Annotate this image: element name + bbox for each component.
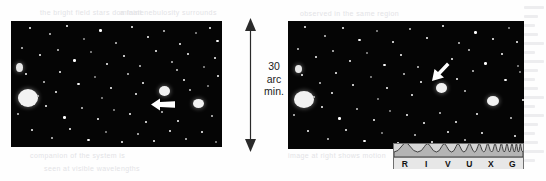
rivuxg-waveband-bar: R I V U X G bbox=[393, 143, 524, 169]
left-sky-panel[interactable] bbox=[11, 21, 222, 147]
waveband-letter-r: R bbox=[394, 159, 416, 169]
object-pointer-arrow bbox=[150, 97, 176, 112]
bleed-through-column bbox=[524, 6, 544, 176]
bright-extended-object bbox=[18, 89, 38, 107]
target-object bbox=[436, 83, 447, 93]
waveband-letter-u: U bbox=[459, 159, 481, 169]
right-sky-panel[interactable] bbox=[288, 21, 524, 149]
bright-object-right bbox=[193, 99, 204, 108]
bright-star-upper-left bbox=[295, 65, 302, 73]
bleed-through-text-e: observed in the same region bbox=[300, 10, 399, 17]
target-object bbox=[159, 86, 170, 96]
bleed-through-text-c: companion of the system is bbox=[30, 152, 125, 159]
bleed-through-text-f: image at right shows motion bbox=[288, 152, 386, 159]
bright-extended-object bbox=[294, 91, 314, 108]
bleed-through-text-d: seen at visible wavelengths bbox=[44, 165, 140, 172]
waveband-letter-g: G bbox=[502, 159, 524, 169]
rivuxg-letter-strip: R I V U X G bbox=[394, 157, 523, 169]
bright-star-upper-left bbox=[16, 63, 23, 72]
bleed-through-text-b: a faint nebulosity surrounds bbox=[120, 9, 217, 16]
bleed-through-text-a: the bright field stars dominate bbox=[40, 9, 144, 16]
electromagnetic-wave-icon bbox=[394, 144, 523, 157]
waveband-letter-v: V bbox=[437, 159, 459, 169]
waveband-letter-x: X bbox=[480, 159, 502, 169]
angular-scale-indicator: 30 arc min. bbox=[231, 18, 281, 152]
bright-object-right bbox=[487, 96, 499, 106]
object-pointer-arrow bbox=[430, 61, 450, 83]
waveband-letter-i: I bbox=[416, 159, 438, 169]
